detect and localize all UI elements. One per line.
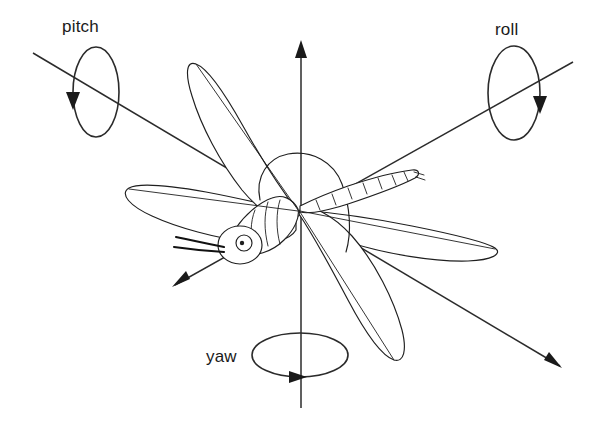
antennae (176, 237, 224, 247)
dragonfly (125, 63, 497, 360)
figure-canvas: pitch roll yaw (0, 0, 603, 446)
pitch-rotation-arrowhead (66, 92, 80, 110)
abdomen (300, 170, 419, 213)
roll-rotation-arrowhead (533, 96, 547, 114)
rotation-indicator-yaw (252, 333, 348, 383)
roll-rotation-ellipse (488, 46, 540, 140)
eye-pupil (240, 241, 244, 245)
antennae-lower (174, 247, 224, 252)
pitch-label: pitch (62, 17, 99, 36)
yaw-label: yaw (206, 347, 237, 366)
roll-axis-arrowhead (172, 271, 190, 287)
yaw-rotation-ellipse (252, 333, 348, 377)
yaw-rotation-arrowhead (289, 371, 307, 383)
rotation-axes-figure: pitch roll yaw (0, 0, 603, 446)
yaw-axis-arrowhead (295, 40, 307, 58)
rotation-indicator-pitch (66, 47, 119, 137)
roll-label: roll (495, 20, 518, 39)
pitch-axis-arrowhead (544, 352, 562, 368)
